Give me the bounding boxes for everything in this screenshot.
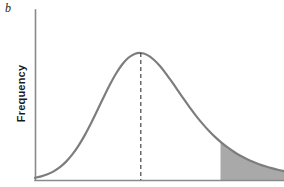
figure-panel-b: b Frequency <box>0 0 284 187</box>
distribution-curve <box>35 53 284 178</box>
plot-area <box>35 10 284 181</box>
distribution-plot <box>0 0 284 187</box>
